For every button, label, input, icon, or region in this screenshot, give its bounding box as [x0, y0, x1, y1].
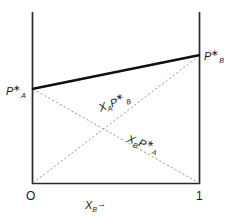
label-pb-star: P∗B: [204, 47, 224, 64]
pa-ann-star: ∗: [145, 137, 156, 149]
pb-ann-star: ∗: [114, 91, 125, 103]
pa-subscript: A: [21, 92, 26, 99]
partial-pressure-b-line: [33, 56, 199, 183]
total-pressure-line: [32, 55, 200, 89]
x-tick-label-one: 1: [196, 190, 203, 202]
pb-subscript: B: [219, 57, 224, 64]
figure-root: P∗A P∗B XAP∗B XBP∗A O 1 XB→: [0, 0, 234, 216]
x-axis-title: XB→: [85, 196, 106, 213]
x-axis-arrow-icon: →: [97, 199, 106, 209]
label-pa-star: P∗A: [6, 82, 26, 99]
x-tick-label-origin: O: [26, 190, 35, 202]
